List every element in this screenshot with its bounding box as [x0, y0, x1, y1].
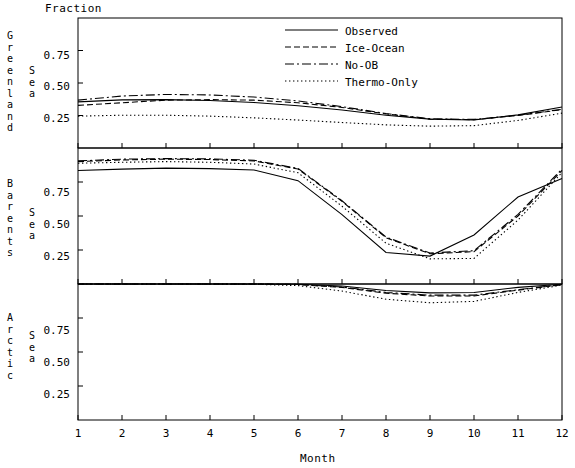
- series-line-observed: [78, 100, 562, 120]
- xtick-label-1: 1: [68, 427, 88, 440]
- figure-root: Fraction Month Greenland Sea Barents Sea…: [0, 0, 575, 468]
- plot-canvas: [0, 0, 575, 468]
- xtick-label-8: 8: [376, 427, 396, 440]
- xtick-label-10: 10: [464, 427, 484, 440]
- series-line-thermo-only: [78, 113, 562, 126]
- xtick-label-5: 5: [244, 427, 264, 440]
- panel-greenland-sea: [78, 18, 562, 148]
- xtick-label-9: 9: [420, 427, 440, 440]
- legend: [285, 30, 338, 81]
- panel-frame: [78, 18, 562, 148]
- series-line-ice-ocean: [78, 159, 562, 254]
- xtick-label-6: 6: [288, 427, 308, 440]
- series-line-thermo-only: [78, 162, 562, 259]
- panel-arctic-sea: [78, 284, 562, 420]
- xtick-label-3: 3: [156, 427, 176, 440]
- xtick-label-2: 2: [112, 427, 132, 440]
- xtick-label-12: 12: [552, 427, 572, 440]
- panel-frame: [78, 284, 562, 420]
- series-line-ice-ocean: [78, 100, 562, 120]
- series-line-observed: [78, 168, 562, 256]
- xtick-label-7: 7: [332, 427, 352, 440]
- xtick-label-4: 4: [200, 427, 220, 440]
- panel-barents-sea: [78, 148, 562, 284]
- xtick-label-11: 11: [508, 427, 528, 440]
- series-line-no-ob: [78, 284, 562, 295]
